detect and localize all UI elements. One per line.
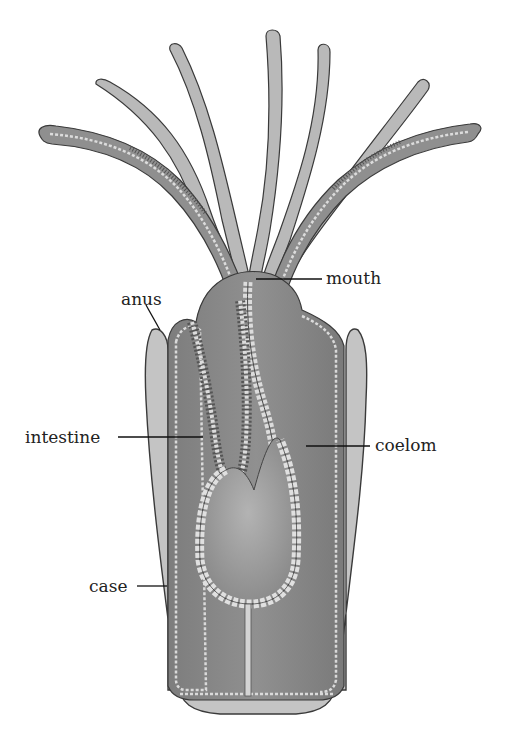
- label-case: case: [89, 578, 127, 595]
- label-mouth: mouth: [326, 270, 381, 287]
- label-coelom: coelom: [375, 437, 437, 454]
- funiculus: [245, 604, 251, 696]
- label-intestine: intestine: [25, 429, 100, 446]
- label-anus: anus: [121, 291, 162, 308]
- lophophorate-diagram: [0, 0, 509, 740]
